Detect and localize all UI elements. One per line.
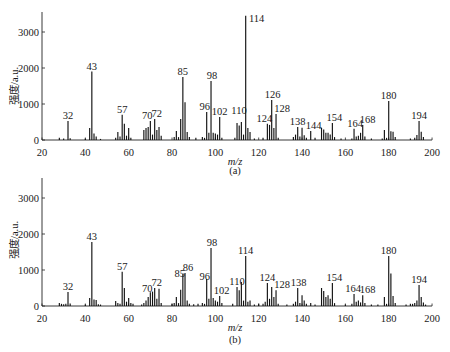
x-tick-label: 20 [37, 313, 48, 324]
peak-label: 32 [63, 281, 74, 292]
x-tick-label: 40 [80, 147, 91, 158]
peak-label: 154 [327, 112, 344, 123]
x-tick-label: 160 [338, 313, 354, 324]
y-tick-label: 1000 [18, 99, 39, 110]
x-axis-label: m/z [228, 322, 243, 333]
x-tick-label: 180 [381, 313, 397, 324]
x-tick-label: 20 [37, 147, 48, 158]
x-tick-label: 160 [338, 147, 354, 158]
x-tick-label: 120 [251, 147, 267, 158]
x-tick-label: 200 [424, 313, 440, 324]
peak-label: 154 [327, 272, 344, 283]
peak-label: 168 [360, 114, 376, 125]
peak-label: 180 [381, 90, 397, 101]
peak-label: 98 [207, 237, 218, 248]
peak-label: 98 [207, 70, 218, 81]
peak-label: 110 [229, 276, 244, 287]
y-tick-label: 2000 [18, 229, 39, 240]
peak-label: 85 [178, 66, 189, 77]
peak-label: 180 [381, 245, 397, 256]
peak-label: 72 [151, 108, 162, 119]
spectrum-panel-b: 0100020003000204060801001201401601802003… [0, 176, 450, 352]
panel-caption: (a) [229, 165, 241, 176]
panel-caption: (b) [229, 334, 241, 345]
peak-label: 194 [411, 274, 428, 285]
peak-label: 32 [63, 110, 74, 121]
x-tick-label: 120 [251, 313, 267, 324]
peak-label: 128 [274, 279, 290, 290]
peak-label: 138 [290, 116, 306, 127]
y-tick-label: 1000 [18, 265, 39, 276]
peak-label: 72 [151, 277, 162, 288]
peak-label: 110 [231, 105, 246, 116]
peak-label: 124 [256, 113, 273, 124]
x-tick-label: 140 [294, 313, 310, 324]
y-tick-label: 3000 [18, 27, 39, 38]
y-axis-label: 强度/a.u. [6, 221, 21, 259]
peak-label: 194 [411, 110, 428, 121]
x-tick-label: 80 [167, 313, 178, 324]
peak-label: 168 [360, 284, 376, 295]
spectrum-panel-a: 0100020003000204060801001201401601802003… [0, 0, 450, 176]
peak-label: 144 [306, 120, 323, 131]
spectrum-plot-a: 0100020003000204060801001201401601802003… [0, 0, 450, 176]
peak-label: 102 [212, 106, 228, 117]
x-tick-label: 100 [207, 147, 223, 158]
peak-label: 102 [214, 285, 230, 296]
peak-label: 114 [238, 245, 254, 256]
x-tick-label: 60 [123, 313, 134, 324]
peak-label: 57 [117, 104, 128, 115]
x-tick-label: 40 [80, 313, 91, 324]
peak-label: 43 [87, 231, 98, 242]
x-tick-label: 200 [424, 147, 440, 158]
y-tick-label: 0 [34, 135, 39, 146]
x-tick-label: 60 [123, 147, 134, 158]
peak-label: 138 [291, 277, 307, 288]
x-tick-label: 100 [207, 313, 223, 324]
x-tick-label: 180 [381, 147, 397, 158]
peak-label: 43 [87, 61, 98, 72]
peak-label: 86 [183, 262, 194, 273]
y-axis-label: 强度/a.u. [6, 67, 21, 105]
peak-label: 96 [199, 271, 210, 282]
peak-label: 128 [274, 103, 290, 114]
x-tick-label: 140 [294, 147, 310, 158]
peak-label: 96 [199, 101, 210, 112]
y-tick-label: 3000 [18, 193, 39, 204]
x-tick-label: 80 [167, 147, 178, 158]
y-tick-label: 2000 [18, 63, 39, 74]
y-tick-label: 0 [34, 301, 39, 312]
peak-label: 126 [265, 89, 281, 100]
spectrum-plot-b: 0100020003000204060801001201401601802003… [0, 176, 450, 352]
peak-label: 114 [249, 13, 265, 24]
peak-label: 57 [117, 261, 128, 272]
